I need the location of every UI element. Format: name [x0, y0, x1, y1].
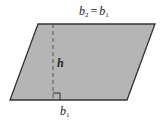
top-base-subscript: 2 [85, 11, 89, 19]
parallelogram-shape [10, 24, 155, 100]
top-base-subscript2: 1 [105, 11, 109, 19]
height-label: h [57, 57, 64, 69]
top-base-label: b2=b1 [79, 5, 109, 19]
bottom-base-subscript: 1 [66, 111, 70, 119]
bottom-base-label: b1 [60, 105, 70, 119]
equals-sign: = [89, 4, 100, 18]
